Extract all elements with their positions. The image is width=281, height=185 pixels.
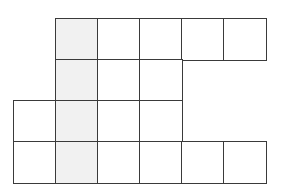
grid-cell: [139, 59, 183, 102]
shaded-grid-cell: [55, 100, 99, 143]
grid-cell: [97, 141, 141, 184]
grid-cell: [13, 141, 57, 184]
grid-cell: [223, 18, 267, 61]
grid-cell: [223, 141, 267, 184]
shaded-grid-cell: [55, 141, 99, 184]
grid-cell: [181, 141, 225, 184]
grid-cell: [97, 18, 141, 61]
shaded-grid-cell: [55, 59, 99, 102]
grid-cell: [139, 141, 183, 184]
grid-cell: [97, 100, 141, 143]
shaded-grid-cell: [55, 18, 99, 61]
grid-cell: [97, 59, 141, 102]
grid-cell: [13, 100, 57, 143]
grid-cell: [139, 18, 183, 61]
grid-cell: [181, 18, 225, 61]
grid-cell: [139, 100, 183, 143]
